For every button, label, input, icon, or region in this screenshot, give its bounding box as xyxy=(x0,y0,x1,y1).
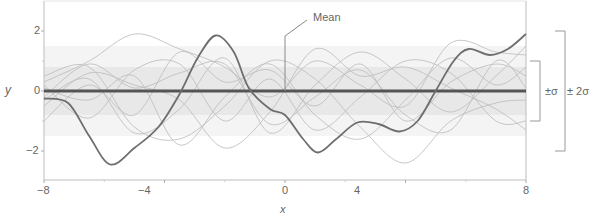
x-tick-label-neg8: −8 xyxy=(37,185,50,196)
x-tick-label-neg4: −4 xyxy=(138,185,151,196)
y-tick-label-neg2: −2 xyxy=(26,145,39,156)
x-tick-label-4: 4 xyxy=(354,185,360,196)
x-tick-label-0: 0 xyxy=(282,185,288,196)
x-tick-label-8: 8 xyxy=(523,185,529,196)
sigma2-label: ± 2σ xyxy=(567,86,589,97)
gp-samples-chart xyxy=(0,0,593,222)
y-axis-label: y xyxy=(5,84,11,96)
x-axis-label: x xyxy=(280,204,286,215)
sigma1-bracket xyxy=(530,61,540,121)
y-tick-label-0: 0 xyxy=(34,85,40,96)
sigma1-label: ±σ xyxy=(545,86,558,97)
y-tick-label-2: 2 xyxy=(34,25,40,36)
mean-annotation-label: Mean xyxy=(313,12,341,23)
